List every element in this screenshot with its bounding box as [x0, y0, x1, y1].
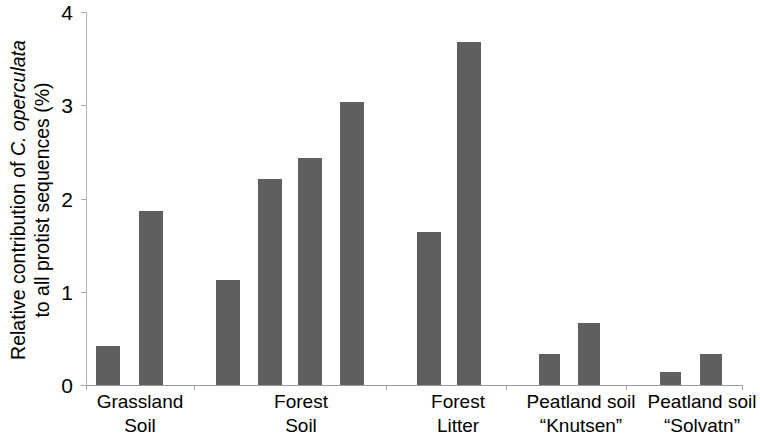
y-axis-tick-label: 4	[61, 2, 73, 23]
y-axis-line	[86, 12, 87, 385]
x-axis-category-label: GrasslandSoil	[65, 390, 215, 438]
category-label-line-1: Peatland soil	[648, 391, 757, 412]
x-axis-category-label: ForestSoil	[211, 390, 391, 438]
bar	[96, 346, 120, 385]
y-axis-tick-label: 1	[61, 281, 73, 302]
category-label-line-2: “Solvatn”	[634, 414, 760, 438]
y-axis-title-species: C. operculata	[7, 40, 29, 156]
y-axis-title-prefix: Relative contribution of	[7, 156, 29, 360]
plot-area: 01234	[86, 12, 742, 385]
x-axis-line	[86, 385, 742, 386]
category-label-line-1: Grassland	[97, 391, 184, 412]
bar	[457, 42, 481, 385]
category-label-line-2: Litter	[393, 414, 523, 438]
bar	[340, 102, 364, 385]
category-label-line-1: Peatland soil	[527, 391, 636, 412]
bar	[417, 232, 441, 385]
x-axis-category-label: Peatland soil“Solvatn”	[634, 390, 760, 438]
y-axis-tick: 1	[81, 292, 86, 293]
y-axis-tick: 2	[81, 199, 86, 200]
category-label-line-1: Forest	[431, 391, 485, 412]
y-axis-tick: 4	[81, 12, 86, 13]
category-label-line-2: Soil	[65, 414, 215, 438]
y-axis-tick-label: 3	[61, 95, 73, 116]
bar	[216, 280, 240, 385]
bar	[139, 211, 163, 385]
y-axis-tick: 3	[81, 105, 86, 106]
bar	[539, 354, 560, 385]
y-axis-title-line-1: Relative contribution of C. operculata	[7, 40, 31, 360]
bar	[298, 158, 322, 385]
category-label-line-2: Soil	[211, 414, 391, 438]
bar	[578, 323, 600, 385]
bar	[700, 354, 722, 385]
x-axis-category-label: ForestLitter	[393, 390, 523, 438]
bar	[258, 179, 282, 385]
y-axis-title-line-2: to all protist sequences (%)	[31, 82, 55, 317]
x-axis-category-label: Peatland soil“Knutsen”	[513, 390, 649, 438]
category-label-line-2: “Knutsen”	[513, 414, 649, 438]
y-axis-tick-label: 2	[61, 188, 73, 209]
y-axis-title: Relative contribution of C. operculata t…	[0, 0, 62, 400]
bar	[660, 372, 681, 385]
category-label-line-1: Forest	[274, 391, 328, 412]
